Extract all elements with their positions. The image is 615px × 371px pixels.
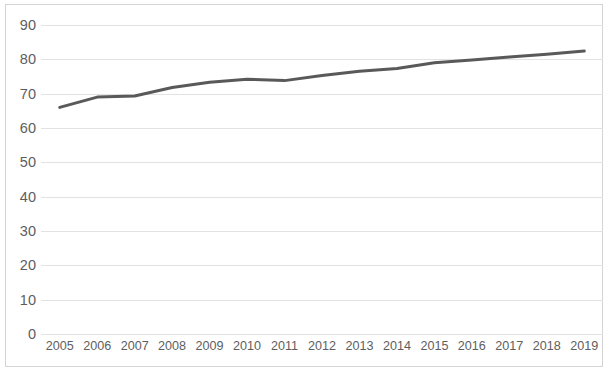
line-chart: 0102030405060708090 20052006200720082009…: [0, 0, 615, 371]
y-tick-label: 80: [2, 52, 36, 67]
x-axis-tick-labels: 2005200620072008200920102011201220132014…: [41, 340, 603, 362]
x-tick-label: 2012: [308, 340, 336, 353]
gridline-y-20: [41, 265, 603, 266]
x-tick-label: 2005: [46, 340, 74, 353]
gridline-y-50: [41, 162, 603, 163]
gridline-y-30: [41, 231, 603, 232]
gridline-y-70: [41, 94, 603, 95]
x-tick-label: 2008: [158, 340, 186, 353]
plot-area: [41, 25, 603, 334]
x-tick-label: 2010: [233, 340, 261, 353]
gridline-y-90: [41, 25, 603, 26]
x-tick-label: 2009: [196, 340, 224, 353]
x-tick-label: 2017: [495, 340, 523, 353]
y-tick-label: 40: [2, 189, 36, 204]
gridline-y-40: [41, 197, 603, 198]
gridline-y-80: [41, 59, 603, 60]
gridline-y-10: [41, 300, 603, 301]
x-tick-label: 2016: [458, 340, 486, 353]
y-tick-label: 30: [2, 224, 36, 239]
y-tick-label: 60: [2, 121, 36, 136]
gridline-y-0: [41, 334, 603, 335]
y-tick-label: 70: [2, 86, 36, 101]
y-tick-label: 90: [2, 18, 36, 33]
x-tick-label: 2007: [121, 340, 149, 353]
gridline-y-60: [41, 128, 603, 129]
y-axis-tick-labels: 0102030405060708090: [0, 25, 36, 334]
x-tick-label: 2015: [420, 340, 448, 353]
x-tick-label: 2019: [570, 340, 598, 353]
y-tick-label: 20: [2, 258, 36, 273]
x-tick-label: 2013: [345, 340, 373, 353]
x-tick-label: 2006: [83, 340, 111, 353]
y-tick-label: 0: [2, 327, 36, 342]
x-tick-label: 2018: [533, 340, 561, 353]
y-tick-label: 50: [2, 155, 36, 170]
y-tick-label: 10: [2, 292, 36, 307]
x-tick-label: 2014: [383, 340, 411, 353]
x-tick-label: 2011: [271, 340, 298, 353]
